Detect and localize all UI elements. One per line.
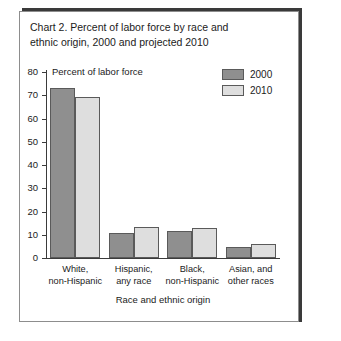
- y-axis-tick-mark: [42, 258, 46, 259]
- y-axis-tick-mark: [42, 212, 46, 213]
- x-axis-line: [46, 258, 280, 259]
- y-axis-tick-label: 50: [16, 137, 38, 147]
- y-axis-tick-mark: [42, 119, 46, 120]
- bar: [50, 88, 75, 258]
- y-axis-line: [46, 70, 47, 259]
- y-axis-tick-mark: [42, 188, 46, 189]
- legend-swatch: [222, 85, 244, 96]
- y-axis-tick-label: 10: [16, 230, 38, 240]
- y-axis-tick-label: 60: [16, 114, 38, 124]
- bar: [109, 233, 134, 258]
- legend-label: 2000: [250, 69, 272, 80]
- y-axis-tick-label: 70: [16, 90, 38, 100]
- x-axis-title: Race and ethnic origin: [46, 294, 280, 305]
- bar: [75, 97, 100, 258]
- y-axis-tick-label: 30: [16, 183, 38, 193]
- y-axis-tick-label: 20: [16, 207, 38, 217]
- y-axis-tick-mark: [42, 142, 46, 143]
- bar: [251, 244, 276, 258]
- y-axis-tick-mark: [42, 95, 46, 96]
- chart-figure: Chart 2. Percent of labor force by race …: [0, 0, 341, 341]
- bar: [226, 247, 251, 258]
- x-axis-category-label: Asian, and other races: [209, 264, 293, 287]
- y-axis-tick-label: 80: [16, 67, 38, 77]
- bar: [167, 231, 192, 258]
- chart-title: Chart 2. Percent of labor force by race …: [30, 20, 280, 50]
- y-axis-tick-mark: [42, 72, 46, 73]
- legend-label: 2010: [250, 85, 272, 96]
- y-axis-tick-mark: [42, 165, 46, 166]
- y-axis-tick-label: 0: [16, 253, 38, 263]
- bar: [134, 227, 159, 258]
- bar: [192, 228, 217, 258]
- y-axis-tick-mark: [42, 235, 46, 236]
- y-axis-label: Percent of labor force: [52, 66, 143, 77]
- legend-swatch: [222, 69, 244, 80]
- y-axis-tick-label: 40: [16, 160, 38, 170]
